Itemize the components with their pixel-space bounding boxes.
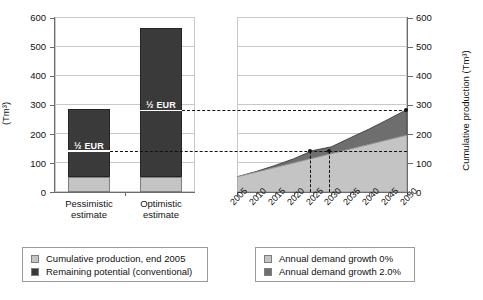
endpoint-marker-2050 (404, 108, 408, 112)
right-ytick-300: 300 (416, 100, 440, 110)
legend-label: Annual demand growth 2.0% (279, 267, 401, 277)
dropline-2029 (329, 151, 330, 192)
right-ytick-mark (408, 18, 413, 19)
right-y-axis-title: Cumulative production (Tm³) (460, 31, 471, 191)
right-area-series (237, 17, 407, 192)
legend-swatch-light-icon (264, 255, 272, 263)
right-ytick-600: 600 (416, 13, 440, 23)
legend-item-growth-2: Annual demand growth 2.0% (264, 265, 406, 278)
right-ytick-mark (408, 47, 413, 48)
legend-label: Remaining potential (conventional) (46, 267, 192, 277)
right-area-chart: 2005 2010 2015 2020 2025 2030 2035 2040 … (0, 0, 483, 235)
right-legend: Annual demand growth 0% Annual demand gr… (255, 247, 415, 282)
right-ytick-mark (408, 105, 413, 106)
xtick-label-2005: 2005 (228, 186, 249, 207)
connector-line-lower (110, 151, 407, 152)
legend-swatch-mid-icon (264, 268, 272, 276)
right-ytick-0: 0 (416, 188, 440, 198)
legend-item-growth-0: Annual demand growth 0% (264, 252, 406, 265)
legend-item-remaining-potential: Remaining potential (conventional) (31, 265, 199, 278)
legend-swatch-dark-icon (31, 268, 39, 276)
right-ytick-400: 400 (416, 71, 440, 81)
right-ytick-100: 100 (416, 159, 440, 169)
legend-item-cumulative-production: Cumulative production, end 2005 (31, 252, 199, 265)
legend-swatch-light-icon (31, 255, 39, 263)
legend-label: Annual demand growth 0% (279, 254, 393, 264)
legend-label: Cumulative production, end 2005 (46, 254, 185, 264)
left-legend: Cumulative production, end 2005 Remainin… (22, 247, 208, 282)
dropline-2024 (310, 151, 311, 192)
connector-line-upper (182, 110, 407, 111)
right-ytick-200: 200 (416, 130, 440, 140)
right-ytick-mark (408, 163, 413, 164)
right-ytick-500: 500 (416, 42, 440, 52)
right-ytick-mark (408, 134, 413, 135)
figure-root: (Tm³) 600 500 400 300 200 100 0 ½ (0, 0, 483, 300)
area-growth-0pct (237, 135, 407, 192)
right-ytick-mark (408, 76, 413, 77)
right-ytick-mark (408, 192, 413, 193)
